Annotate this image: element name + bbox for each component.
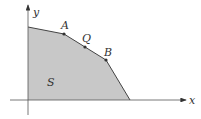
point-q-label: Q <box>82 32 91 45</box>
y-axis-label: y <box>32 6 40 19</box>
region-s <box>28 27 130 100</box>
point-q <box>83 45 86 48</box>
diagram: y x A Q B S <box>0 0 201 119</box>
point-a <box>62 32 65 35</box>
point-b-label: B <box>103 46 112 59</box>
x-axis-label: x <box>189 94 196 107</box>
region-label: S <box>47 76 55 89</box>
point-a-label: A <box>60 19 69 32</box>
